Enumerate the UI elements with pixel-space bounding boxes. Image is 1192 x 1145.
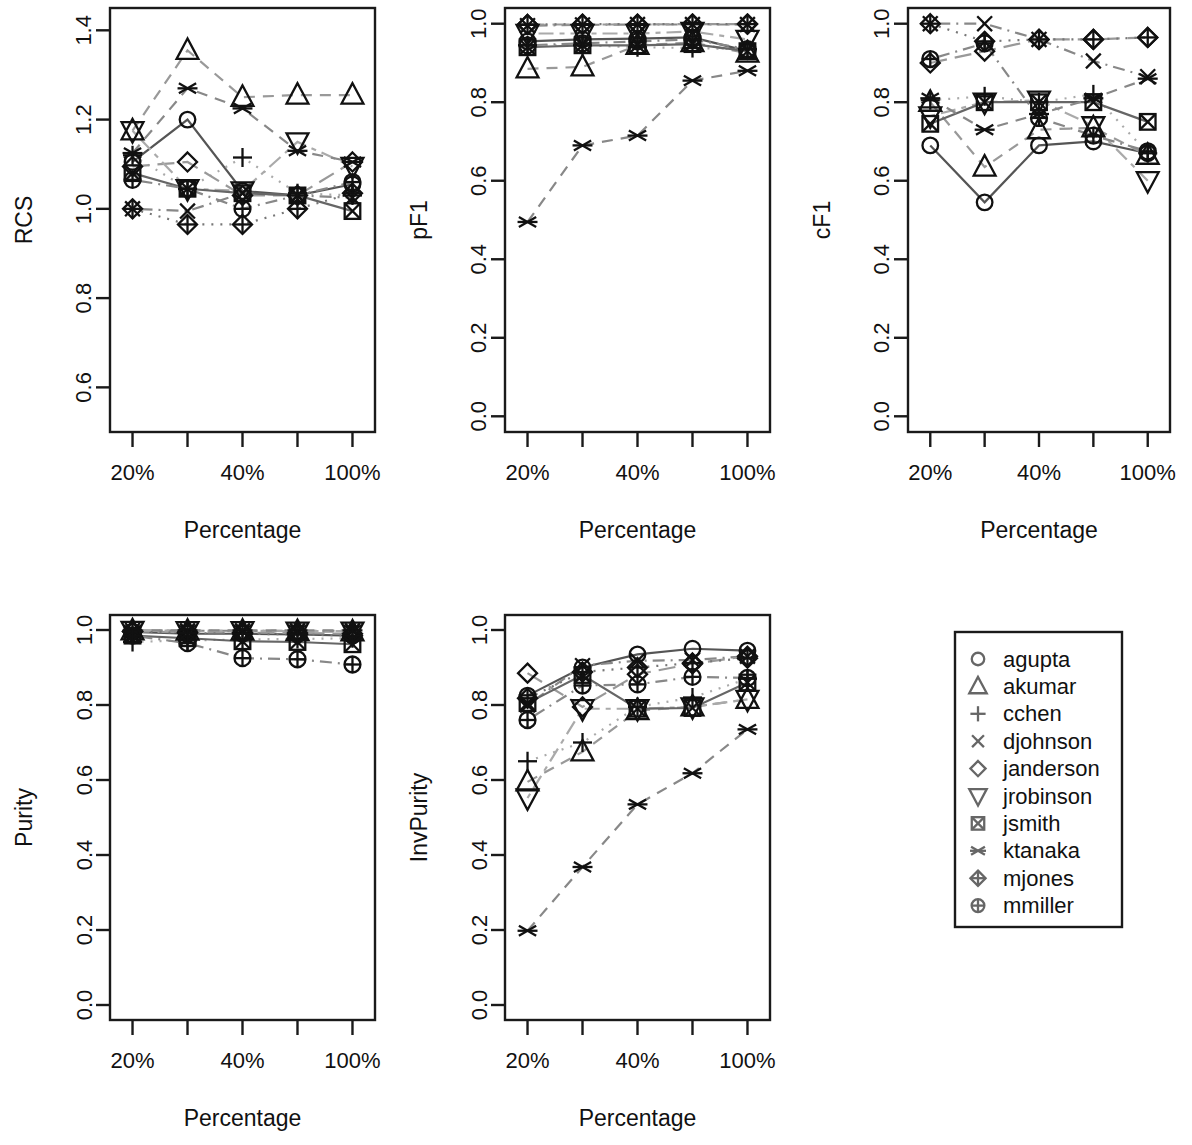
y-tick-label: 0.0	[870, 401, 895, 432]
y-tick-label: 1.0	[870, 8, 895, 39]
marker-triangle-down	[1137, 172, 1159, 192]
x-tick-label: 20%	[908, 460, 952, 485]
y-tick-label: 0.0	[467, 401, 492, 432]
x-tick-label: 100%	[1120, 460, 1176, 485]
legend-item-label: jsmith	[1002, 811, 1060, 836]
series-line-akumar	[133, 50, 353, 130]
legend-item-label: akumar	[1003, 674, 1076, 699]
x-axis-title: Percentage	[980, 517, 1098, 543]
x-tick-label: 20%	[506, 1048, 550, 1073]
panel-invpurity: 0.00.20.40.60.81.0InvPurity20%40%100%Per…	[406, 615, 776, 1131]
y-tick-label: 0.4	[467, 840, 492, 871]
x-tick-label: 40%	[1017, 460, 1061, 485]
y-tick-label: 0.6	[467, 765, 492, 796]
y-tick-label: 0.4	[870, 244, 895, 275]
marker-triangle-up	[177, 39, 199, 59]
legend-item-label: agupta	[1003, 647, 1071, 672]
x-tick-label: 20%	[111, 1048, 155, 1073]
series-markers-ktanaka	[518, 66, 758, 227]
legend-item-label: djohnson	[1003, 729, 1092, 754]
marker-triangle-down	[517, 789, 539, 809]
y-axis-title: RCS	[11, 196, 37, 245]
y-tick-label: 0.6	[72, 765, 97, 796]
marker-circle	[922, 138, 938, 154]
series-group	[517, 15, 759, 227]
x-tick-label: 100%	[719, 1048, 775, 1073]
x-axis-title: Percentage	[579, 1105, 697, 1131]
series-line-ktanaka	[528, 71, 748, 222]
plot-box	[505, 8, 770, 432]
legend-item-label: mmiller	[1003, 893, 1074, 918]
plot-box	[110, 615, 375, 1020]
series-group	[122, 39, 364, 234]
x-tick-label: 40%	[615, 460, 659, 485]
marker-triangle-up	[572, 55, 594, 75]
legend-item-label: ktanaka	[1003, 838, 1081, 863]
x-tick-label: 40%	[220, 460, 264, 485]
y-axis-title: pF1	[406, 200, 432, 240]
y-tick-label: 1.4	[72, 15, 97, 46]
x-axis-title: Percentage	[184, 1105, 302, 1131]
series-group	[919, 14, 1158, 210]
x-tick-label: 100%	[719, 460, 775, 485]
x-tick-label: 20%	[506, 460, 550, 485]
x-tick-label: 40%	[615, 1048, 659, 1073]
y-tick-label: 0.2	[72, 915, 97, 946]
panel-rcs: 0.60.81.01.21.4RCS20%40%100%Percentage	[11, 8, 381, 543]
y-tick-label: 0.6	[870, 165, 895, 196]
y-tick-label: 0.8	[870, 87, 895, 118]
y-tick-label: 0.6	[72, 372, 97, 403]
legend: aguptaakumarcchendjohnsonjandersonjrobin…	[955, 632, 1122, 927]
y-tick-label: 0.2	[467, 915, 492, 946]
y-tick-label: 0.6	[467, 165, 492, 196]
y-tick-label: 0.2	[467, 322, 492, 353]
y-tick-label: 0.8	[72, 283, 97, 314]
panel-cf1: 0.00.20.40.60.81.0cF120%40%100%Percentag…	[809, 8, 1176, 543]
multi-panel-figure: 0.60.81.01.21.4RCS20%40%100%Percentage0.…	[0, 0, 1192, 1145]
x-axis-title: Percentage	[184, 517, 302, 543]
y-tick-label: 0.8	[467, 690, 492, 721]
y-tick-label: 0.0	[467, 990, 492, 1021]
series-line-ktanaka	[528, 729, 748, 930]
y-tick-label: 0.4	[72, 840, 97, 871]
y-tick-label: 1.0	[467, 615, 492, 646]
x-tick-label: 40%	[220, 1048, 264, 1073]
marker-triangle-up	[342, 83, 364, 103]
legend-item-label: jrobinson	[1002, 784, 1092, 809]
y-axis-title: Purity	[11, 788, 37, 847]
y-axis-title: InvPurity	[406, 772, 432, 862]
series-line-agupta	[930, 141, 1147, 202]
y-tick-label: 0.0	[72, 990, 97, 1021]
y-tick-label: 1.0	[467, 8, 492, 39]
y-tick-label: 0.8	[467, 87, 492, 118]
y-tick-label: 0.2	[870, 322, 895, 353]
y-tick-label: 1.2	[72, 104, 97, 135]
legend-item-label: janderson	[1002, 756, 1100, 781]
marker-triangle-up	[517, 57, 539, 77]
series-group	[122, 619, 364, 673]
y-tick-label: 0.8	[72, 690, 97, 721]
figure-root: 0.60.81.01.21.4RCS20%40%100%Percentage0.…	[0, 0, 1192, 1145]
marker-triangle-up	[287, 83, 309, 103]
y-tick-label: 1.0	[72, 194, 97, 225]
x-tick-label: 100%	[324, 460, 380, 485]
y-tick-label: 0.4	[467, 244, 492, 275]
series-group	[517, 641, 759, 936]
panel-pf1: 0.00.20.40.60.81.0pF120%40%100%Percentag…	[406, 8, 776, 543]
y-tick-label: 1.0	[72, 615, 97, 646]
legend-symbol-circle-plus-icon	[972, 899, 985, 912]
y-axis-title: cF1	[809, 201, 835, 239]
legend-item-label: mjones	[1003, 866, 1074, 891]
x-tick-label: 100%	[324, 1048, 380, 1073]
panel-purity: 0.00.20.40.60.81.0Purity20%40%100%Percen…	[11, 615, 381, 1131]
legend-item-label: cchen	[1003, 701, 1062, 726]
x-tick-label: 20%	[111, 460, 155, 485]
x-axis-title: Percentage	[579, 517, 697, 543]
